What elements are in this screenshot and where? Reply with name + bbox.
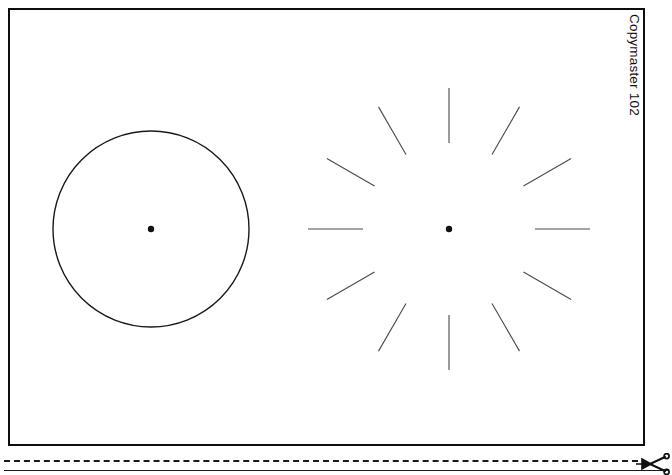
cut-here-line	[0, 452, 672, 475]
cut-dash-line	[4, 460, 638, 462]
page-root: Copymaster 102	[0, 0, 672, 475]
cut-baseline	[4, 470, 668, 471]
test-pattern-card	[8, 8, 645, 446]
side-caption: Copymaster 102	[623, 8, 645, 188]
scissors-icon	[636, 453, 670, 475]
